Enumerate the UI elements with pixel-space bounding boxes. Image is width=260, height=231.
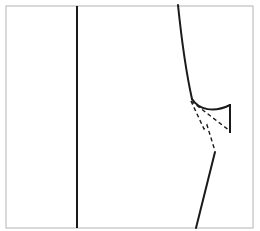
canvas-background bbox=[0, 0, 260, 231]
line-drawing-canvas bbox=[0, 0, 260, 231]
figure-container bbox=[0, 0, 260, 231]
